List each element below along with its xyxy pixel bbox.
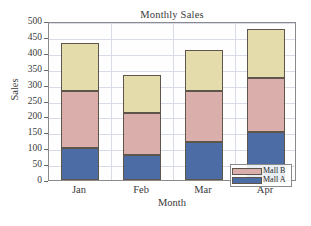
legend-item[interactable]: Mall B [232, 167, 290, 175]
legend-label: Mall A [263, 176, 285, 184]
bar-segment[interactable] [185, 91, 223, 142]
x-tick-label: Mar [178, 184, 228, 195]
y-tick-label: 200 [12, 112, 42, 121]
bar-segment[interactable] [185, 50, 223, 91]
bar-segment[interactable] [247, 78, 285, 132]
bar-segment[interactable] [61, 148, 99, 180]
x-tick-label: Jan [54, 184, 104, 195]
bar-segment[interactable] [123, 75, 161, 113]
y-tick-label: 350 [12, 65, 42, 74]
plot-area [48, 22, 296, 181]
y-tick-label: 450 [12, 33, 42, 42]
bar-group[interactable] [123, 22, 161, 180]
bar-segment[interactable] [123, 113, 161, 154]
bar-segment[interactable] [61, 43, 99, 91]
y-tick-label: 150 [12, 128, 42, 137]
bar-group[interactable] [247, 22, 285, 180]
bar-group[interactable] [61, 22, 99, 180]
legend-swatch [232, 177, 262, 184]
y-tick-mark [44, 181, 48, 182]
x-tick-label: Feb [116, 184, 166, 195]
bar-segment[interactable] [185, 142, 223, 180]
bar-segment[interactable] [123, 155, 161, 180]
chart-title: Monthly Sales [48, 9, 296, 20]
legend-swatch [232, 168, 262, 175]
y-tick-label: 500 [12, 17, 42, 26]
chart-legend: Mall BMall A [230, 164, 292, 187]
y-tick-label: 250 [12, 97, 42, 106]
bar-segment[interactable] [61, 91, 99, 148]
legend-label: Mall B [263, 167, 285, 175]
bar-series-group [49, 23, 295, 180]
y-tick-label: 100 [12, 144, 42, 153]
y-tick-label: 300 [12, 81, 42, 90]
y-tick-label: 400 [12, 49, 42, 58]
y-tick-label: 0 [12, 176, 42, 185]
chart-container: Monthly Sales Sales 05010015020025030035… [0, 0, 311, 226]
bar-group[interactable] [185, 22, 223, 180]
legend-item[interactable]: Mall A [232, 176, 290, 184]
x-axis-title: Month [48, 197, 296, 208]
bar-segment[interactable] [247, 29, 285, 78]
y-tick-label: 50 [12, 160, 42, 169]
